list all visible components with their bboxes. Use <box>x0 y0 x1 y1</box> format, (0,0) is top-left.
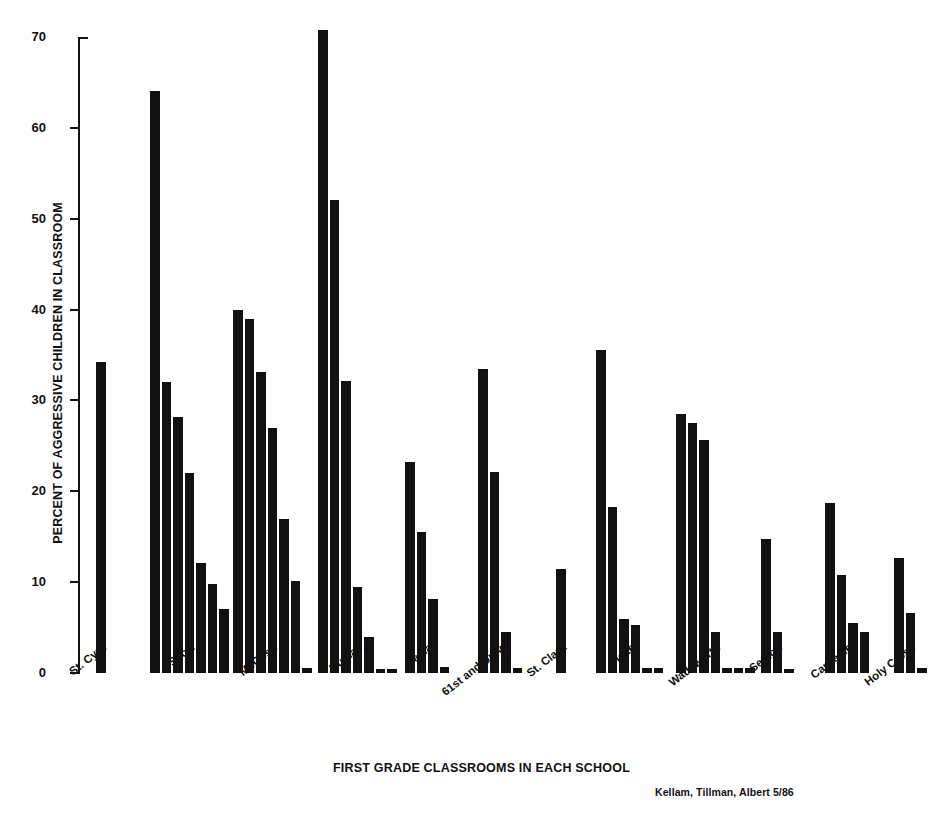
bar <box>405 462 415 673</box>
bar <box>440 667 450 673</box>
bar <box>688 423 698 673</box>
chart-credit: Kellam, Tillman, Albert 5/86 <box>655 786 794 798</box>
bar <box>699 440 709 673</box>
y-axis-tick-label: 0 <box>39 665 46 680</box>
bar <box>219 609 229 673</box>
bar <box>478 369 488 673</box>
y-axis-line <box>78 37 80 674</box>
y-axis-tick <box>70 490 79 492</box>
bar <box>387 669 397 673</box>
y-axis-tick-label: 20 <box>32 483 46 498</box>
plot-area: 010203040506070 <box>88 37 906 673</box>
bar <box>513 668 523 673</box>
x-axis-title: FIRST GRADE CLASSROOMS IN EACH SCHOOL <box>333 761 630 775</box>
bar <box>245 319 255 673</box>
bar <box>330 200 340 673</box>
y-axis-tick <box>70 127 79 129</box>
bar <box>376 669 386 673</box>
bar <box>162 382 172 673</box>
bar <box>233 310 243 673</box>
bar <box>318 30 328 673</box>
y-axis-tick-label: 10 <box>32 574 46 589</box>
bar <box>654 668 664 673</box>
bar <box>825 503 835 673</box>
y-axis-top-cap <box>78 37 88 39</box>
y-axis-tick-label: 50 <box>32 211 46 226</box>
y-axis-tick <box>70 399 79 401</box>
bar <box>917 668 927 673</box>
y-axis-tick-label: 70 <box>32 29 46 44</box>
bar <box>676 414 686 673</box>
bar <box>341 381 351 673</box>
y-axis-tick <box>70 218 79 220</box>
bar <box>302 668 312 673</box>
y-axis-tick <box>70 581 79 583</box>
bar <box>150 91 160 673</box>
bar <box>642 668 652 673</box>
bar <box>608 507 618 673</box>
y-axis-tick-label: 60 <box>32 120 46 135</box>
bar <box>268 428 278 673</box>
bar <box>722 668 732 673</box>
y-axis-tick <box>70 309 79 311</box>
y-axis-tick-label: 40 <box>32 302 46 317</box>
bar <box>256 372 266 673</box>
y-axis-title: PERCENT OF AGGRESSIVE CHILDREN IN CLASSR… <box>51 93 65 653</box>
bar <box>279 519 289 673</box>
bar <box>96 362 106 673</box>
bar <box>173 417 183 673</box>
y-axis-tick-label: 30 <box>32 393 46 408</box>
bar <box>784 669 794 673</box>
bar <box>734 668 744 673</box>
bar <box>353 587 363 673</box>
bar <box>196 563 206 673</box>
